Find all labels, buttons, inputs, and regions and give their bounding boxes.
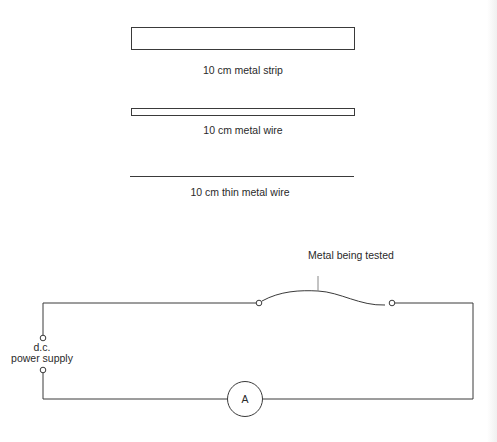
test-metal-label: Metal being tested [308,249,394,261]
experiment-diagram: 10 cm metal strip 10 cm metal wire 10 cm… [0,0,497,442]
circuit-wires [43,276,473,399]
ammeter-symbol: A [241,393,248,405]
metal-strip-label: 10 cm metal strip [203,64,283,76]
thin-wire-label: 10 cm thin metal wire [190,186,289,198]
metal-wire-shape [132,109,355,116]
supply-terminal-top [40,335,46,341]
terminal-right [389,300,395,306]
metal-strip-shape [132,28,355,50]
supply-label-line2: power supply [11,352,73,364]
terminal-left [256,300,262,306]
metal-wire-label: 10 cm metal wire [203,124,282,136]
test-metal-curve [262,291,385,305]
supply-terminal-bottom [40,367,46,373]
